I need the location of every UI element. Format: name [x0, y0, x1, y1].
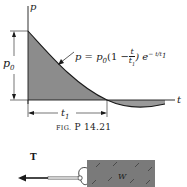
equation-exponent: − t/t1 [148, 50, 166, 57]
rope-knot [78, 176, 82, 180]
equation-close: ) e [135, 51, 148, 62]
pressure-equation: p = p0(1 −tt1) e− t/t1 [75, 48, 167, 67]
caption-prefix: FIG. [56, 124, 71, 132]
equation-leader-arrow [58, 59, 64, 65]
duration-label: t1 [61, 108, 70, 121]
force-arrowhead [18, 175, 26, 182]
t1-arrow-left [28, 111, 34, 115]
p-axis-label: p [30, 2, 36, 12]
equation-lhs: p = p [75, 51, 103, 62]
caption-number: P 14.21 [74, 122, 111, 132]
rope [48, 177, 78, 180]
figure-caption: FIG. P 14.21 [56, 123, 111, 132]
figure-canvas [0, 0, 187, 187]
t1-arrow-right [101, 111, 107, 115]
t-axis-label: t [177, 95, 181, 105]
amplitude-symbol: p [3, 57, 10, 70]
block-label: W [118, 173, 126, 181]
p0-arrow-down [12, 94, 16, 100]
amplitude-subscript: 0 [10, 64, 14, 72]
force-label: T [30, 153, 37, 162]
equation-open: (1 − [107, 51, 129, 62]
p0-arrow-up [12, 31, 16, 37]
exponent-text: − t/t [148, 50, 162, 57]
duration-subscript: 1 [65, 113, 69, 121]
amplitude-label: p0 [3, 58, 15, 72]
exponent-sub: 1 [162, 52, 166, 60]
